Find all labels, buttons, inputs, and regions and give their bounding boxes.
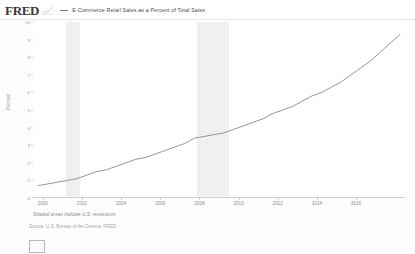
x-axis-tick-label: 2000 (38, 201, 48, 206)
x-axis-tick (121, 198, 122, 200)
y-axis-tick-label: 0 (28, 196, 30, 201)
plot-wrapper: 012345678910 200020022004200620082010201… (33, 22, 405, 198)
fred-logo[interactable]: FRED (5, 4, 39, 17)
y-axis-tick-label: 1 (28, 178, 30, 183)
y-axis-tick (31, 110, 33, 111)
header-divider (0, 19, 415, 20)
y-axis-tick-label: 2 (28, 160, 30, 165)
legend-series-label: E-Commerce Retail Sales as a Percent of … (72, 7, 205, 13)
y-axis-tick (31, 162, 33, 163)
fred-badge[interactable] (29, 240, 45, 253)
y-axis-tick-label: 7 (28, 72, 30, 77)
x-axis-tick-label: 2006 (155, 201, 165, 206)
plot-area[interactable] (33, 22, 405, 198)
x-axis-tick (356, 198, 357, 200)
x-axis-tick (43, 198, 44, 200)
fred-chart-page: FRED E-Commerce Retail Sales as a Percen… (0, 0, 415, 254)
y-axis-tick (31, 74, 33, 75)
x-axis-tick-label: 2008 (194, 201, 204, 206)
y-axis-tick (31, 57, 33, 58)
source-label: Source: U.S. Bureau of the Census, FRED (29, 224, 116, 229)
recession-note: Shaded areas indicate U.S. recessions (33, 212, 116, 217)
y-axis-tick-label: 6 (28, 90, 30, 95)
chart-header: FRED E-Commerce Retail Sales as a Percen… (0, 0, 415, 20)
x-axis-tick-label: 2016 (351, 201, 361, 206)
y-axis-title: Percent (6, 94, 11, 110)
y-axis-tick-label: 8 (28, 55, 30, 60)
line-chart-icon (42, 6, 53, 15)
x-axis-tick-label: 2002 (77, 201, 87, 206)
x-axis-tick-label: 2004 (116, 201, 126, 206)
x-axis-tick (317, 198, 318, 200)
y-axis-tick-label: 9 (28, 37, 30, 42)
y-axis-tick (31, 22, 33, 23)
x-axis-tick (82, 198, 83, 200)
x-axis-tick-label: 2014 (312, 201, 322, 206)
x-axis-tick (239, 198, 240, 200)
legend-line-swatch (60, 10, 68, 11)
y-axis-tick-label: 10 (25, 20, 30, 25)
y-axis-tick (31, 198, 33, 199)
y-axis-tick (31, 39, 33, 40)
y-axis-tick-label: 3 (28, 143, 30, 148)
y-axis-tick (31, 145, 33, 146)
y-axis-tick-label: 4 (28, 125, 30, 130)
x-axis-tick (199, 198, 200, 200)
y-axis-tick (31, 127, 33, 128)
x-axis-tick-label: 2010 (233, 201, 243, 206)
x-axis-tick (160, 198, 161, 200)
y-axis-tick-label: 5 (28, 108, 30, 113)
y-axis-tick (31, 92, 33, 93)
series-path (38, 34, 400, 185)
x-axis-tick (278, 198, 279, 200)
series-line (33, 22, 405, 198)
y-axis-tick (31, 180, 33, 181)
x-axis-tick-label: 2012 (273, 201, 283, 206)
